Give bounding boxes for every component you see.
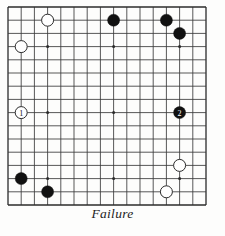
figure-caption: Failure	[0, 206, 225, 222]
stone-disc[interactable]	[15, 41, 27, 53]
star-point	[46, 111, 49, 114]
stone-disc[interactable]	[108, 14, 120, 26]
go-stone-white[interactable]	[160, 186, 172, 198]
stone-disc[interactable]	[42, 186, 54, 198]
go-stone-white[interactable]	[174, 159, 186, 171]
star-point	[46, 45, 49, 48]
go-stone-black[interactable]	[160, 14, 172, 26]
star-point	[112, 45, 115, 48]
go-stone-white[interactable]	[42, 14, 54, 26]
go-stone-black[interactable]	[108, 14, 120, 26]
star-point	[112, 177, 115, 180]
stone-disc[interactable]	[174, 159, 186, 171]
star-point	[178, 177, 181, 180]
go-stone-white[interactable]	[15, 41, 27, 53]
go-stone-white[interactable]: 1	[15, 107, 27, 119]
go-diagram-figure: 12 Failure	[0, 0, 225, 236]
stone-disc[interactable]	[174, 27, 186, 39]
stone-move-number: 2	[178, 109, 182, 118]
stone-disc[interactable]	[160, 186, 172, 198]
go-stone-black[interactable]: 2	[174, 107, 186, 119]
stone-disc[interactable]	[42, 14, 54, 26]
star-point	[112, 111, 115, 114]
stone-move-number: 1	[19, 109, 23, 118]
star-point	[46, 177, 49, 180]
go-board-canvas[interactable]: 12	[0, 0, 225, 210]
go-board[interactable]: 12	[0, 0, 225, 210]
stone-disc[interactable]	[15, 173, 27, 185]
stone-disc[interactable]	[160, 14, 172, 26]
go-stone-black[interactable]	[42, 186, 54, 198]
go-stone-black[interactable]	[174, 27, 186, 39]
go-stone-black[interactable]	[15, 173, 27, 185]
star-point	[178, 45, 181, 48]
